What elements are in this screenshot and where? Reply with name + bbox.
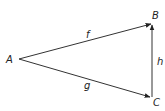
edge-label-g: g: [84, 80, 90, 91]
edge-f: [19, 24, 151, 59]
triangle-diagram: A B C f g h: [0, 0, 165, 111]
vertex-label-b: B: [152, 10, 159, 21]
vertex-label-a: A: [5, 54, 13, 65]
edge-label-h: h: [157, 56, 163, 67]
edge-g: [19, 59, 150, 97]
vertex-label-c: C: [153, 97, 160, 108]
edge-label-f: f: [86, 29, 91, 40]
